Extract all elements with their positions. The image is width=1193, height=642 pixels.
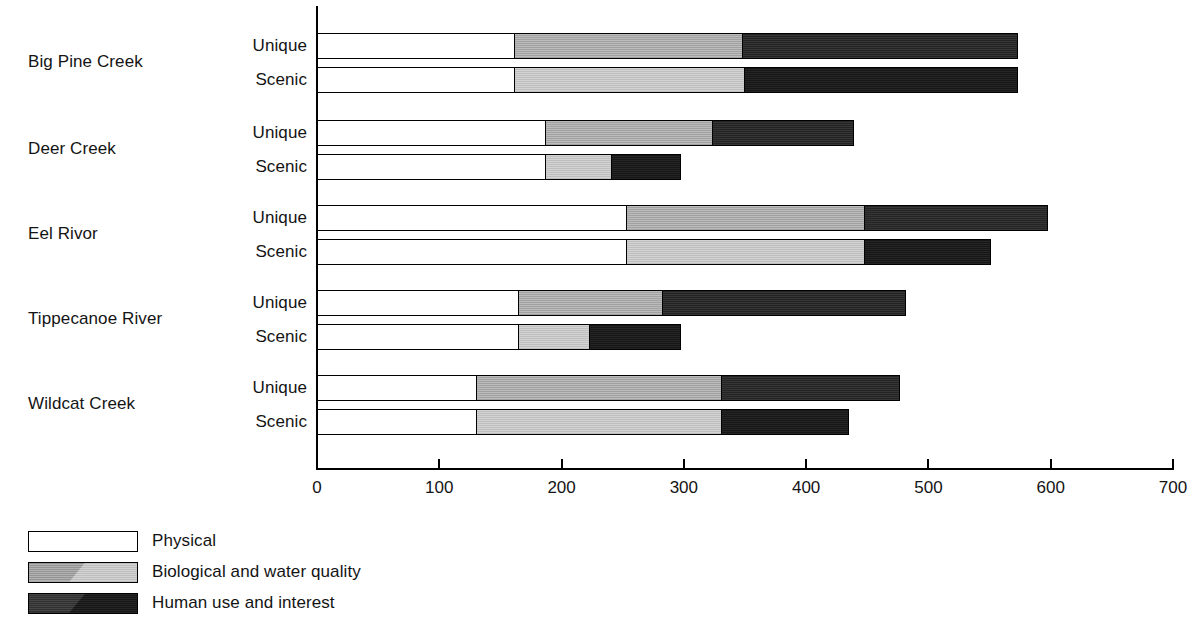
bar-deer-creek-unique	[317, 120, 858, 146]
bar-deer-creek-scenic	[317, 154, 684, 180]
bar-big-pine-creek-scenic	[317, 67, 1021, 93]
segment-physical	[317, 324, 520, 350]
x-axis-tick-label: 200	[547, 478, 575, 498]
segment-human	[864, 205, 1047, 231]
x-axis-tick	[805, 459, 807, 468]
x-axis-line	[316, 468, 1174, 470]
segment-physical	[317, 120, 547, 146]
segment-biological	[518, 324, 590, 350]
bar-big-pine-creek-unique	[317, 33, 1021, 59]
bar-tippecanoe-river-scenic	[317, 324, 684, 350]
segment-biological	[545, 120, 714, 146]
x-axis-tick-label: 500	[914, 478, 942, 498]
segment-human	[589, 324, 681, 350]
bar-label-unique: Unique	[253, 36, 307, 56]
x-axis-tick	[438, 459, 440, 468]
bar-label-scenic: Scenic	[255, 327, 307, 347]
legend-swatch-physical	[28, 531, 138, 552]
segment-physical	[317, 33, 515, 59]
segment-biological	[626, 239, 866, 265]
x-axis-tick	[683, 459, 685, 468]
group-label-wildcat-creek: Wildcat Creek	[28, 394, 135, 414]
x-axis-tick-label: 600	[1037, 478, 1065, 498]
bar-label-scenic: Scenic	[255, 412, 307, 432]
segment-human	[864, 239, 991, 265]
bar-label-unique: Unique	[253, 293, 307, 313]
segment-physical	[317, 154, 547, 180]
bar-label-unique: Unique	[253, 208, 307, 228]
segment-biological	[476, 409, 723, 435]
segment-biological	[545, 154, 612, 180]
x-axis-tick-label: 0	[312, 478, 321, 498]
group-label-tippecanoe-river: Tippecanoe River	[28, 309, 162, 329]
legend-item-physical: Physical	[28, 528, 361, 554]
x-axis-tick	[316, 459, 318, 468]
segment-biological	[514, 67, 746, 93]
x-axis-tick	[1050, 459, 1052, 468]
legend-swatch-biological	[28, 562, 138, 583]
segment-human	[721, 409, 849, 435]
x-axis-tick-label: 400	[792, 478, 820, 498]
bar-eel-rivor-unique	[317, 205, 1051, 231]
legend-label-biological: Biological and water quality	[152, 562, 361, 582]
x-axis-tick-label: 100	[425, 478, 453, 498]
segment-human	[744, 67, 1018, 93]
segment-human	[742, 33, 1018, 59]
segment-human	[721, 375, 900, 401]
bar-wildcat-creek-unique	[317, 375, 903, 401]
x-axis-tick	[927, 459, 929, 468]
bar-label-unique: Unique	[253, 378, 307, 398]
bar-label-scenic: Scenic	[255, 242, 307, 262]
bar-label-unique: Unique	[253, 123, 307, 143]
segment-biological	[476, 375, 723, 401]
bar-label-scenic: Scenic	[255, 70, 307, 90]
group-label-deer-creek: Deer Creek	[28, 139, 116, 159]
bar-wildcat-creek-scenic	[317, 409, 853, 435]
segment-human	[662, 290, 905, 316]
legend-label-human: Human use and interest	[152, 593, 335, 613]
legend-item-human: Human use and interest	[28, 590, 361, 616]
segment-physical	[317, 205, 628, 231]
segment-physical	[317, 375, 477, 401]
segment-biological	[626, 205, 866, 231]
x-axis-tick	[561, 459, 563, 468]
segment-human	[611, 154, 681, 180]
bar-tippecanoe-river-unique	[317, 290, 909, 316]
segment-physical	[317, 290, 520, 316]
segment-biological	[514, 33, 744, 59]
bar-eel-rivor-scenic	[317, 239, 994, 265]
group-label-eel-rivor: Eel Rivor	[28, 224, 98, 244]
segment-human	[712, 120, 854, 146]
segment-biological	[518, 290, 664, 316]
x-axis-tick-label: 300	[670, 478, 698, 498]
chart-legend: PhysicalBiological and water qualityHuma…	[28, 528, 361, 621]
bar-label-scenic: Scenic	[255, 157, 307, 177]
segment-physical	[317, 409, 477, 435]
group-label-big-pine-creek: Big Pine Creek	[28, 52, 143, 72]
segment-physical	[317, 239, 628, 265]
x-axis-tick-label: 700	[1159, 478, 1187, 498]
legend-label-physical: Physical	[152, 531, 216, 551]
x-axis-tick	[1172, 459, 1174, 468]
legend-item-biological: Biological and water quality	[28, 559, 361, 585]
segment-physical	[317, 67, 515, 93]
legend-swatch-human	[28, 593, 138, 614]
